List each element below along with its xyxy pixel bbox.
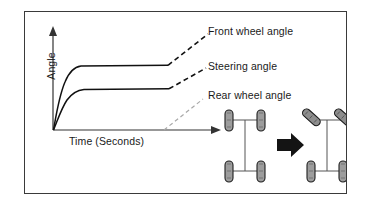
label-rear-wheel-angle: Rear wheel angle xyxy=(208,89,291,101)
y-axis-label: Angle xyxy=(45,34,57,98)
x-axis-label: Time (Seconds) xyxy=(69,135,144,147)
x-axis xyxy=(53,126,221,134)
wheel-front-left-steered xyxy=(301,107,322,127)
wheel-rear-right xyxy=(257,161,265,182)
wheel-front-right xyxy=(257,110,265,131)
arrow-right-icon xyxy=(211,126,221,134)
wheel-rear-left xyxy=(225,161,233,182)
figure-frame: Angle Time (Seconds) Front wheel angle S… xyxy=(24,11,347,194)
series-front-dashed xyxy=(169,68,206,89)
series-steering-solid xyxy=(54,65,169,130)
label-front-wheel-angle: Front wheel angle xyxy=(208,25,293,37)
series-rear-dashed xyxy=(164,99,203,130)
wheel-rear-right-straight xyxy=(339,161,346,182)
wheel-front-left xyxy=(225,110,233,131)
chart-canvas xyxy=(25,12,346,193)
straight-ahead-vehicle xyxy=(225,110,265,182)
label-steering-angle: Steering angle xyxy=(208,60,277,72)
wheel-front-right-steered xyxy=(333,107,346,127)
wheel-rear-left-straight xyxy=(307,161,315,182)
series-steering-dashed xyxy=(168,34,208,65)
series-front-solid xyxy=(54,89,170,130)
figure-container: Angle Time (Seconds) Front wheel angle S… xyxy=(0,0,378,207)
steered-vehicle xyxy=(301,107,346,182)
arrow-right-bold-icon xyxy=(277,133,304,157)
